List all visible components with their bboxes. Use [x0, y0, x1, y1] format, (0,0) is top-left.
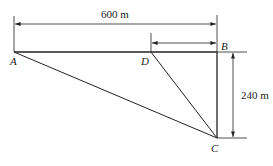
point-label-c: C — [211, 142, 219, 154]
dimension-label-bc: 240 m — [241, 89, 269, 101]
diagram-canvas: 600 m 240 m A B C D — [0, 0, 273, 166]
dimension-label-ab: 600 m — [101, 8, 129, 20]
point-label-d: D — [140, 55, 149, 67]
point-label-b: B — [221, 40, 228, 52]
segment-ac — [14, 52, 217, 138]
point-label-a: A — [9, 55, 17, 67]
segment-dc — [151, 52, 217, 138]
